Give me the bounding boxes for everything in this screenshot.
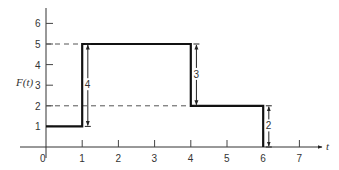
- x-tick-label: 7: [296, 153, 302, 164]
- annotation-label: 3: [193, 69, 199, 80]
- annotations: 432: [84, 44, 273, 147]
- step-function-chart: 01234567123456 432 F(t) t: [0, 0, 339, 170]
- x-tick-label: 0: [40, 153, 46, 164]
- data-series: [46, 44, 263, 147]
- x-tick-label: 1: [79, 153, 85, 164]
- x-tick-label: 2: [115, 153, 121, 164]
- y-tick-label: 2: [35, 101, 41, 112]
- x-tick-label: 3: [152, 153, 158, 164]
- reference-lines: [46, 44, 263, 106]
- y-axis-label: F(t): [15, 76, 33, 89]
- y-tick-label: 6: [35, 18, 41, 29]
- x-axis-label: t: [326, 140, 330, 152]
- x-tick-label: 5: [224, 153, 230, 164]
- y-tick-label: 4: [35, 60, 41, 71]
- x-tick-label: 4: [188, 153, 194, 164]
- annotation-label: 2: [266, 120, 272, 131]
- step-line: [46, 44, 263, 147]
- y-tick-label: 1: [35, 121, 41, 132]
- annotation-label: 4: [85, 79, 91, 90]
- x-tick-label: 6: [260, 153, 266, 164]
- y-tick-label: 3: [35, 80, 41, 91]
- axes: [20, 8, 322, 158]
- y-tick-label: 5: [35, 39, 41, 50]
